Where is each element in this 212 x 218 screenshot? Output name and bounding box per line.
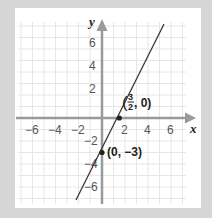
coordinate-plane: y x −6 −4 −2 2 4 6 6 4 2 −2 −4 −6 (0, −3… [0,0,212,218]
graph-line [76,24,164,200]
x-axis-label: x [189,121,197,136]
y-axis-arrow-icon [97,19,108,31]
svg-text:3: 3 [128,92,133,102]
x-tick-label: −6 [25,123,39,137]
point-x-intercept [117,115,122,120]
y-tick-label: 6 [89,36,96,50]
x-tick-label: −4 [48,123,62,137]
svg-text:2: 2 [128,102,133,112]
y-tick-label: 4 [89,59,96,73]
y-tick-label: 2 [89,82,96,96]
y-tick-label: −6 [84,180,98,194]
point-label-y-intercept: (0, −3) [107,145,142,159]
point-y-intercept [99,150,104,155]
x-tick-label: 6 [167,123,174,137]
x-tick-label: −2 [71,123,85,137]
x-tick-label: 2 [121,123,128,137]
x-tick-label: 4 [144,123,151,137]
y-axis-label: y [87,14,95,29]
svg-text:, 0): , 0) [134,96,151,110]
y-tick-label: −2 [84,134,98,148]
